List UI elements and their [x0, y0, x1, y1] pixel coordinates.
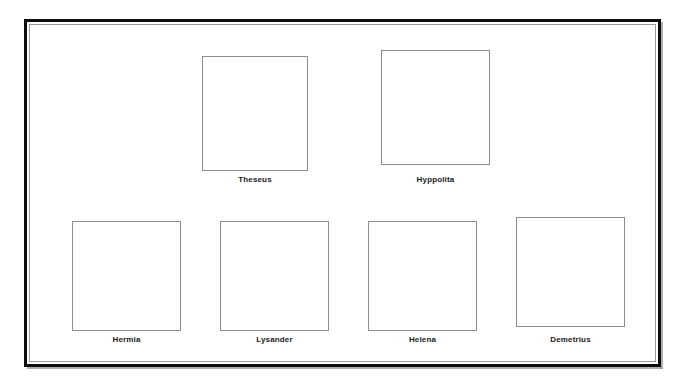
character-card-helena[interactable]: Helena: [368, 221, 477, 331]
photo-placeholder-box[interactable]: [202, 56, 308, 171]
character-name-label: Helena: [409, 335, 436, 345]
character-name-label: Demetrius: [550, 335, 590, 345]
character-card-hermia[interactable]: Hermia: [72, 221, 181, 331]
photo-placeholder-box[interactable]: [516, 217, 625, 327]
poster-frame-inner-border: Theseus Hyppolita Hermia Lysander Helena: [29, 24, 656, 362]
photo-placeholder-box[interactable]: [368, 221, 477, 331]
character-card-lysander[interactable]: Lysander: [220, 221, 329, 331]
character-card-theseus[interactable]: Theseus: [202, 56, 308, 171]
character-name-label: Hermia: [112, 335, 140, 345]
character-card-demetrius[interactable]: Demetrius: [516, 217, 625, 331]
photo-placeholder-box[interactable]: [381, 50, 490, 165]
character-name-label: Hyppolita: [417, 175, 455, 185]
photo-placeholder-box[interactable]: [72, 221, 181, 331]
character-board: Theseus Hyppolita Hermia Lysander Helena: [30, 25, 667, 373]
poster-frame: Theseus Hyppolita Hermia Lysander Helena: [24, 19, 661, 367]
character-card-hyppolita[interactable]: Hyppolita: [381, 50, 490, 171]
character-name-label: Lysander: [256, 335, 292, 345]
character-name-label: Theseus: [238, 175, 272, 185]
photo-placeholder-box[interactable]: [220, 221, 329, 331]
